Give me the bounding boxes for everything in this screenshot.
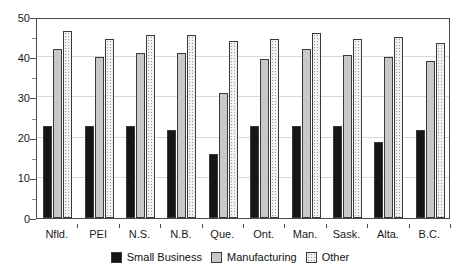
bar [105, 39, 114, 218]
bar [436, 43, 445, 218]
legend-label: Other [322, 252, 350, 263]
bar [229, 41, 238, 218]
y-axis-tick-label: 20 [0, 133, 30, 144]
bar [146, 35, 155, 218]
bar [209, 154, 218, 218]
bar [270, 39, 279, 218]
legend-label: Small Business [127, 252, 202, 263]
y-axis-tick-label: 0 [0, 214, 30, 225]
x-axis-tick-mark [409, 224, 410, 228]
bar [85, 126, 94, 218]
x-axis-tick-label: B.C. [409, 229, 450, 240]
x-axis-tick-mark [160, 224, 161, 228]
bar [136, 53, 145, 218]
x-axis-tick-label: Ont. [243, 229, 284, 240]
legend-swatch [111, 252, 122, 263]
bar-group [120, 35, 161, 218]
bar-group [37, 31, 78, 218]
x-axis-tick-mark [243, 224, 244, 228]
bar [43, 126, 52, 218]
bar [333, 126, 342, 218]
x-axis-tick-mark [367, 224, 368, 228]
x-axis-tick-mark [326, 224, 327, 228]
bar [343, 55, 352, 218]
bar [384, 57, 393, 218]
bar [95, 57, 104, 218]
x-axis-tick-mark [284, 224, 285, 228]
bar-group [285, 33, 326, 218]
bar [260, 59, 269, 218]
x-axis: Nfld.PEIN.S.N.B.Que.Ont.Man.Sask.Alta.B.… [36, 224, 450, 240]
bar [63, 31, 72, 218]
bar-group [203, 41, 244, 218]
x-axis-tick-label: Que. [202, 229, 243, 240]
bar-group [327, 39, 368, 218]
legend-entry: Other [306, 252, 350, 263]
x-axis-tick-mark [450, 224, 451, 228]
legend-label: Manufacturing [227, 252, 297, 263]
bar [374, 142, 383, 218]
legend-entry: Small Business [111, 252, 202, 263]
bar [426, 61, 435, 218]
bar [416, 130, 425, 218]
bar-group [78, 39, 119, 218]
bar [53, 49, 62, 218]
x-axis-tick-label: Alta. [367, 229, 408, 240]
x-axis-tick-label: N.S. [119, 229, 160, 240]
bar [394, 37, 403, 218]
y-axis-tick-label: 10 [0, 173, 30, 184]
bar-group [368, 37, 409, 218]
legend-swatch [306, 252, 317, 263]
bar [250, 126, 259, 218]
bar [353, 39, 362, 218]
chart-legend: Small BusinessManufacturingOther [0, 252, 460, 263]
x-axis-tick-label: PEI [77, 229, 118, 240]
bar-group [244, 39, 285, 218]
bar [312, 33, 321, 218]
y-axis-tick-label: 50 [0, 13, 30, 24]
legend-swatch [211, 252, 222, 263]
bar [292, 126, 301, 218]
legend-entry: Manufacturing [211, 252, 297, 263]
y-axis-tick-label: 40 [0, 53, 30, 64]
x-axis-tick-mark [202, 224, 203, 228]
bar [167, 130, 176, 218]
plot-area [36, 18, 450, 219]
bar [302, 49, 311, 218]
bar [219, 93, 228, 218]
y-axis-tick-label: 30 [0, 93, 30, 104]
bar-group [410, 43, 450, 218]
bar-chart: 01020304050 Nfld.PEIN.S.N.B.Que.Ont.Man.… [0, 0, 460, 275]
bar [177, 53, 186, 218]
bar [187, 35, 196, 218]
x-axis-tick-label: Man. [284, 229, 325, 240]
x-axis-tick-label: Nfld. [36, 229, 77, 240]
bar [126, 126, 135, 218]
x-axis-tick-label: N.B. [160, 229, 201, 240]
x-axis-tick-mark [119, 224, 120, 228]
x-axis-tick-label: Sask. [326, 229, 367, 240]
x-axis-tick-mark [77, 224, 78, 228]
y-axis-tick-mark [30, 219, 36, 220]
bar-group [161, 35, 202, 218]
